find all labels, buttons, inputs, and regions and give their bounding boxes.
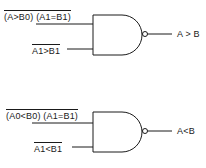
gate2-output-label: A<B: [177, 126, 195, 136]
gate1-output-label: A > B: [177, 29, 200, 39]
gate2-input2-label: A1<B1: [34, 142, 62, 154]
gate1-input2-label: A1>B1: [32, 44, 60, 56]
logic-diagram: [0, 0, 206, 168]
gate1-input1-label: (A>B0) (A1=B1): [4, 10, 71, 22]
gate2-input1-label: (A0<B0) (A1=B1): [6, 109, 78, 121]
